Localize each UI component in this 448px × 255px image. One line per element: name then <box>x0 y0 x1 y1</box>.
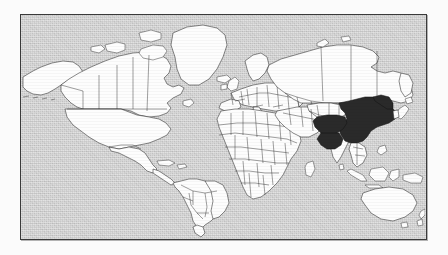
island-ellesmere <box>139 30 161 42</box>
island-severnaya-zemlya <box>341 36 351 42</box>
world-map-svg <box>21 15 425 238</box>
island-sumatra <box>347 169 367 181</box>
island-ireland <box>221 84 227 90</box>
region-oceania <box>361 187 425 228</box>
island-java <box>365 185 383 188</box>
island-new-guinea <box>403 173 423 183</box>
region-scandinavia <box>245 53 269 81</box>
island-victoria <box>105 42 125 53</box>
island-aleutians <box>23 96 55 100</box>
country-mexico <box>109 147 157 173</box>
island-sri-lanka <box>339 164 344 170</box>
island-new-zealand <box>417 209 425 226</box>
island-novaya-zemlya <box>317 39 329 47</box>
world-map-figure <box>0 0 448 255</box>
region-north-america <box>23 30 194 185</box>
island-hispaniola <box>177 164 187 169</box>
region-south-america <box>173 179 229 237</box>
country-greenland <box>171 25 227 85</box>
island-madagascar <box>305 161 315 177</box>
map-frame <box>20 14 427 240</box>
country-australia <box>361 187 417 221</box>
island-banks <box>91 45 105 53</box>
island-sulawesi <box>389 169 399 181</box>
island-cuba <box>157 160 175 166</box>
island-philippines <box>377 145 387 155</box>
region-korea <box>393 110 399 119</box>
island-newfoundland <box>183 99 194 107</box>
region-greenland <box>171 25 231 85</box>
region-indochina <box>349 143 367 167</box>
island-borneo <box>369 167 389 181</box>
country-canada <box>61 52 184 117</box>
region-central-america <box>153 169 175 185</box>
island-tasmania <box>401 222 408 228</box>
